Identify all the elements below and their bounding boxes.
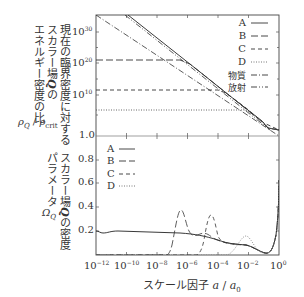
- xtick-1e-4: 10−4: [207, 259, 229, 271]
- bottom-legend-a: A: [107, 143, 114, 154]
- top-ylabel-line1: 現在の臨界密度に対する: [58, 24, 70, 145]
- top-legend-radiation: 放射: [228, 81, 246, 94]
- omega-sub: Q: [50, 213, 56, 221]
- xtick-1e-2: 10−2: [237, 259, 259, 271]
- tick-exp: −12: [97, 259, 110, 266]
- tick-base: 1.0: [79, 129, 95, 140]
- top-series-a: [128, 15, 279, 130]
- bottom-series-a: [96, 180, 279, 253]
- top-ytick-1: 1.0: [79, 129, 95, 140]
- top-series-c: [96, 90, 279, 130]
- tick-base: 10: [72, 89, 85, 100]
- bottom-series-b: [96, 180, 279, 255]
- top-series-radiation: [125, 15, 270, 130]
- xtick-1e0: 100: [270, 259, 287, 271]
- bottom-ytick-0.8: 0.8: [78, 153, 94, 164]
- tick-exp: −6: [189, 259, 198, 266]
- xlabel-text: スケール因子: [143, 279, 213, 292]
- tick-base: 10: [84, 260, 97, 271]
- tick-base: 10: [237, 260, 250, 271]
- tick-exp: 10: [85, 88, 93, 95]
- tick-base: 10: [72, 26, 85, 37]
- tick-exp: −10: [127, 259, 140, 266]
- bottom-y-ticks: [96, 160, 279, 231]
- top-legend-c: C: [238, 43, 246, 54]
- top-ylabel-line2a: スカラー場: [45, 24, 58, 79]
- top-ytick-1e20: 1020: [72, 56, 92, 68]
- bottom-ytick-0.6: 0.6: [78, 176, 94, 187]
- tick-base: 10: [207, 260, 220, 271]
- tick-exp: 30: [85, 25, 93, 32]
- xtick-1e-10: 10−10: [114, 259, 139, 271]
- top-ylabel-q: Q: [45, 79, 58, 89]
- top-ylabel-line2c: の: [45, 89, 58, 100]
- tick-base: 10: [270, 260, 283, 271]
- top-ylabel-line2: スカラー場Qの: [45, 24, 57, 100]
- bottom-ylabel-col1a: スカラー場: [58, 152, 71, 207]
- top-ylabel-ratio: ρQ / ρcrit: [18, 116, 58, 130]
- tick-exp: 0: [283, 259, 287, 266]
- ratio-slash: /: [30, 116, 40, 127]
- tick-exp: −8: [159, 259, 168, 266]
- bottom-ylabel-omega: ΩQ: [42, 207, 56, 221]
- tick-base: 10: [114, 260, 127, 271]
- top-y-ticks: [96, 32, 279, 115]
- bottom-legend-b: B: [107, 155, 114, 166]
- bottom-ylabel-col1: スカラー場Qの密度: [58, 152, 70, 250]
- tick-exp: 20: [85, 56, 93, 63]
- bottom-series-d: [96, 180, 279, 255]
- xtick-1e-8: 10−8: [146, 259, 168, 271]
- xlabel-slash: /: [219, 279, 230, 292]
- bottom-legend-d: D: [107, 180, 115, 191]
- tick-exp: −4: [220, 259, 229, 266]
- top-series-matter: [96, 15, 279, 136]
- bottom-legend-c: C: [107, 168, 115, 179]
- top-ytick-1e30: 1030: [72, 25, 92, 37]
- xtick-1e-6: 10−6: [176, 259, 198, 271]
- top-legend-d: D: [238, 56, 246, 67]
- bottom-legend-samples: [119, 149, 135, 186]
- tick-exp: −2: [250, 259, 259, 266]
- top-series-b: [96, 60, 279, 130]
- tick-base: 10: [146, 260, 159, 271]
- top-legend-b: B: [239, 30, 246, 41]
- rho-sub-crit: crit: [45, 122, 57, 130]
- bottom-ylabel-col1c: の密度: [58, 217, 71, 250]
- bottom-series-c: [96, 180, 279, 255]
- tick-base: 10: [176, 260, 189, 271]
- xtick-1e-12: 10−12: [84, 259, 109, 271]
- x-axis-label: スケール因子 a / a0: [143, 276, 241, 294]
- top-legend-samples: [251, 23, 268, 87]
- top-ytick-1e10: 1010: [72, 88, 92, 100]
- tick-base: 10: [72, 57, 85, 68]
- top-ylabel-line3: エネルギー密度の比: [32, 24, 44, 123]
- top-legend-a: A: [239, 17, 246, 28]
- bottom-ytick-0.4: 0.4: [78, 200, 94, 211]
- bottom-ylabel-col2: パラメータ: [45, 152, 57, 207]
- bottom-ylabel-q: Q: [58, 207, 71, 217]
- bottom-ytick-0.2: 0.2: [78, 224, 94, 235]
- xlabel-a0-sub: 0: [236, 286, 240, 294]
